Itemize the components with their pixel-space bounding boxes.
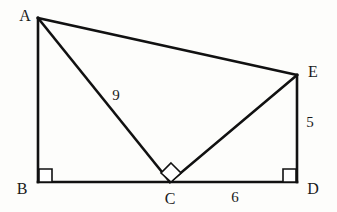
vertex-label-b: B (17, 181, 28, 197)
vertex-label-d: D (307, 181, 319, 197)
vertex-label-e: E (308, 64, 318, 80)
geometry-figure: A B C D E 9 5 6 (0, 0, 337, 212)
geometry-canvas (0, 0, 337, 212)
vertex-label-c: C (165, 191, 176, 207)
right-angle-c (161, 163, 181, 182)
right-angle-markers (39, 163, 296, 182)
vertex-label-a: A (19, 8, 31, 24)
right-angle-b (39, 169, 52, 182)
measure-label-cd: 6 (231, 190, 239, 205)
right-angle-d (283, 169, 296, 182)
segment-ce (170, 75, 297, 182)
measure-label-ed: 5 (306, 115, 314, 130)
measure-label-ac: 9 (112, 88, 120, 103)
segments-group (38, 18, 297, 182)
